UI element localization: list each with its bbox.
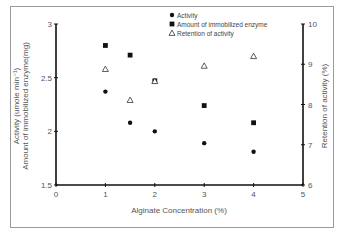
y-axis-title-right: Retention of activity (%)	[320, 63, 329, 148]
x-tick-label: 3	[202, 190, 207, 199]
triangle-open-legend-icon	[169, 30, 175, 35]
axes: 0123451.522.53678910	[41, 20, 318, 199]
triangle-open-marker	[201, 63, 207, 68]
x-axis-title: Alginate Concentration (%)	[131, 206, 227, 215]
legend-label: Amount of immobilized enzyme	[177, 21, 268, 29]
x-tick-label: 0	[54, 190, 59, 199]
y-axis-title-left-activity: Activity (umole min⁻¹)	[12, 67, 21, 144]
triangle-open-marker	[251, 53, 257, 58]
triangle-open-marker	[102, 66, 108, 71]
y-left-tick-label: 2.5	[41, 74, 53, 83]
x-tick-label: 4	[251, 190, 256, 199]
y-right-tick-label: 10	[308, 20, 317, 29]
circle-marker	[202, 141, 206, 145]
y-left-tick-label: 3	[48, 20, 53, 29]
circle-marker	[103, 89, 107, 93]
square-marker	[202, 103, 207, 108]
x-tick-label: 5	[301, 190, 306, 199]
y-right-tick-label: 6	[308, 181, 313, 190]
data-points	[102, 43, 256, 154]
legend-label: Retention of activity	[177, 30, 234, 38]
circle-marker	[251, 150, 255, 154]
circle-legend-icon	[170, 13, 174, 17]
x-tick-label: 1	[103, 190, 108, 199]
y-left-tick-label: 1.5	[41, 181, 53, 190]
legend: ActivityAmount of immobilized enzymeRete…	[169, 12, 268, 38]
y-right-tick-label: 9	[308, 60, 313, 69]
legend-label: Activity	[177, 12, 198, 20]
x-tick-label: 2	[153, 190, 158, 199]
circle-marker	[128, 121, 132, 125]
y-left-tick-label: 2	[48, 127, 53, 136]
scatter-chart: 0123451.522.53678910 ActivityAmount of i…	[0, 0, 338, 231]
y-right-tick-label: 7	[308, 141, 313, 150]
triangle-open-marker	[127, 97, 133, 102]
y-right-tick-label: 8	[308, 101, 313, 110]
circle-marker	[153, 129, 157, 133]
square-marker	[103, 43, 108, 48]
square-marker	[251, 120, 256, 125]
square-marker	[128, 53, 133, 58]
y-axis-title-left-amount: Amount of immobilized enzyme(mg)	[21, 42, 30, 170]
square-legend-icon	[170, 22, 175, 27]
